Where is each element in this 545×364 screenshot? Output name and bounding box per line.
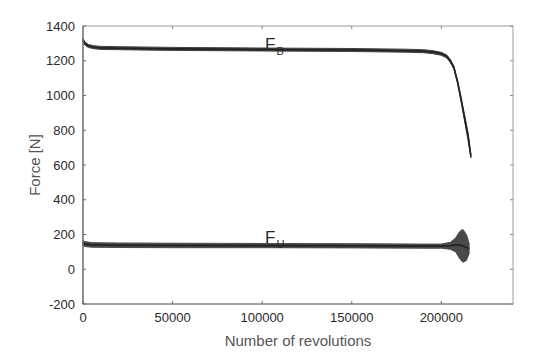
x-tick-label: 100000 xyxy=(240,310,283,325)
series-label-b: FB xyxy=(265,35,284,57)
y-tick-label: 400 xyxy=(53,192,75,207)
y-tick-label: 800 xyxy=(53,123,75,138)
force-vs-revolutions-chart: -200020040060080010001200140005000010000… xyxy=(0,0,545,364)
x-tick-label: 0 xyxy=(79,310,86,325)
x-axis-label: Number of revolutions xyxy=(225,332,372,349)
y-tick-label: 600 xyxy=(53,158,75,173)
series-label-u: FU xyxy=(265,228,284,250)
plot-frame xyxy=(83,26,513,304)
y-axis-label: Force [N] xyxy=(26,134,43,196)
x-tick-label: 150000 xyxy=(330,310,373,325)
x-tick-label: 50000 xyxy=(155,310,191,325)
y-tick-label: 0 xyxy=(68,262,75,277)
y-tick-label: 1200 xyxy=(46,53,75,68)
series-layer xyxy=(83,38,471,262)
y-tick-label: -200 xyxy=(49,297,75,312)
annotations: FBFU xyxy=(265,35,284,250)
y-tick-label: 200 xyxy=(53,227,75,242)
axes: -200020040060080010001200140005000010000… xyxy=(46,19,513,326)
x-tick-label: 200000 xyxy=(420,310,463,325)
y-tick-label: 1400 xyxy=(46,19,75,34)
y-tick-label: 1000 xyxy=(46,88,75,103)
